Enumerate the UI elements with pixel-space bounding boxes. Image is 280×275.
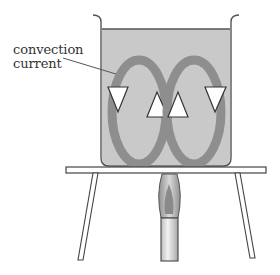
convection-label-line1: convection <box>13 43 83 57</box>
convection-label-line2: current <box>13 57 83 71</box>
tripod-leg-left <box>78 173 98 260</box>
tripod-leg-right <box>235 173 255 258</box>
bunsen-burner-flame <box>159 174 181 218</box>
bunsen-burner <box>161 218 178 261</box>
convection-label: convection current <box>13 43 83 71</box>
tripod-top <box>66 167 266 173</box>
convection-diagram: convection current <box>0 0 280 275</box>
